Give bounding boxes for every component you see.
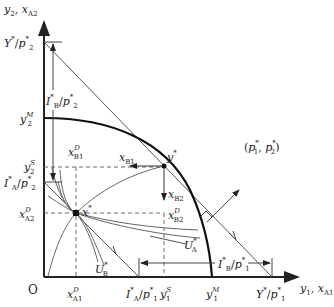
label-Y-over-p2: Y*/p*2 [4,36,34,52]
label-xB1: xB1 [119,152,135,166]
label-y-star: y* [167,150,177,163]
label-xB1D: xDB1 [68,145,83,161]
label-xA1D: xDA1 [67,287,82,303]
budget-line-arrow-icon [229,231,236,240]
label-y1M: yM1 [206,287,218,303]
household-a-budget-line [44,182,139,277]
label-IA-over-p1: I*A/p*1 [126,287,158,303]
label-origin: O [28,284,38,296]
label-price-vector: (*p*1, p*2) [244,140,280,156]
label-y1S: yS1 [160,287,170,303]
label-IA-over-p2: I*A/p*2 [4,176,36,192]
offer-curve [48,166,164,276]
household-a-line-arrow-icon [110,246,116,254]
label-xA2D: xDA2 [19,207,34,223]
ua-leader [150,236,186,244]
y-star-point [162,164,167,169]
label-y2S: yS2 [24,160,34,176]
label-UA: U*A [184,238,197,254]
label-xB2: xB2 [168,189,184,203]
y-axis-label: y2, xA2 [4,4,37,18]
diagram-canvas: y2, xA2 Y*/p*2 I*B/p*2 yM2 yS2 I*A/p*2 x… [0,0,334,307]
label-xB2D: xDB2 [168,208,183,224]
x-axis-label: y1, xA1 [300,283,333,297]
label-IB-over-p1: I*B/p*1 [218,257,250,273]
label-IB-over-p2: I*B/p*2 [46,94,78,110]
label-Y-over-p1: Y*/p*1 [256,287,286,303]
x-star-point [73,210,79,216]
label-UB: U*B [95,262,108,278]
label-x-star: x* [82,205,92,218]
label-y2M: yM2 [20,112,32,128]
